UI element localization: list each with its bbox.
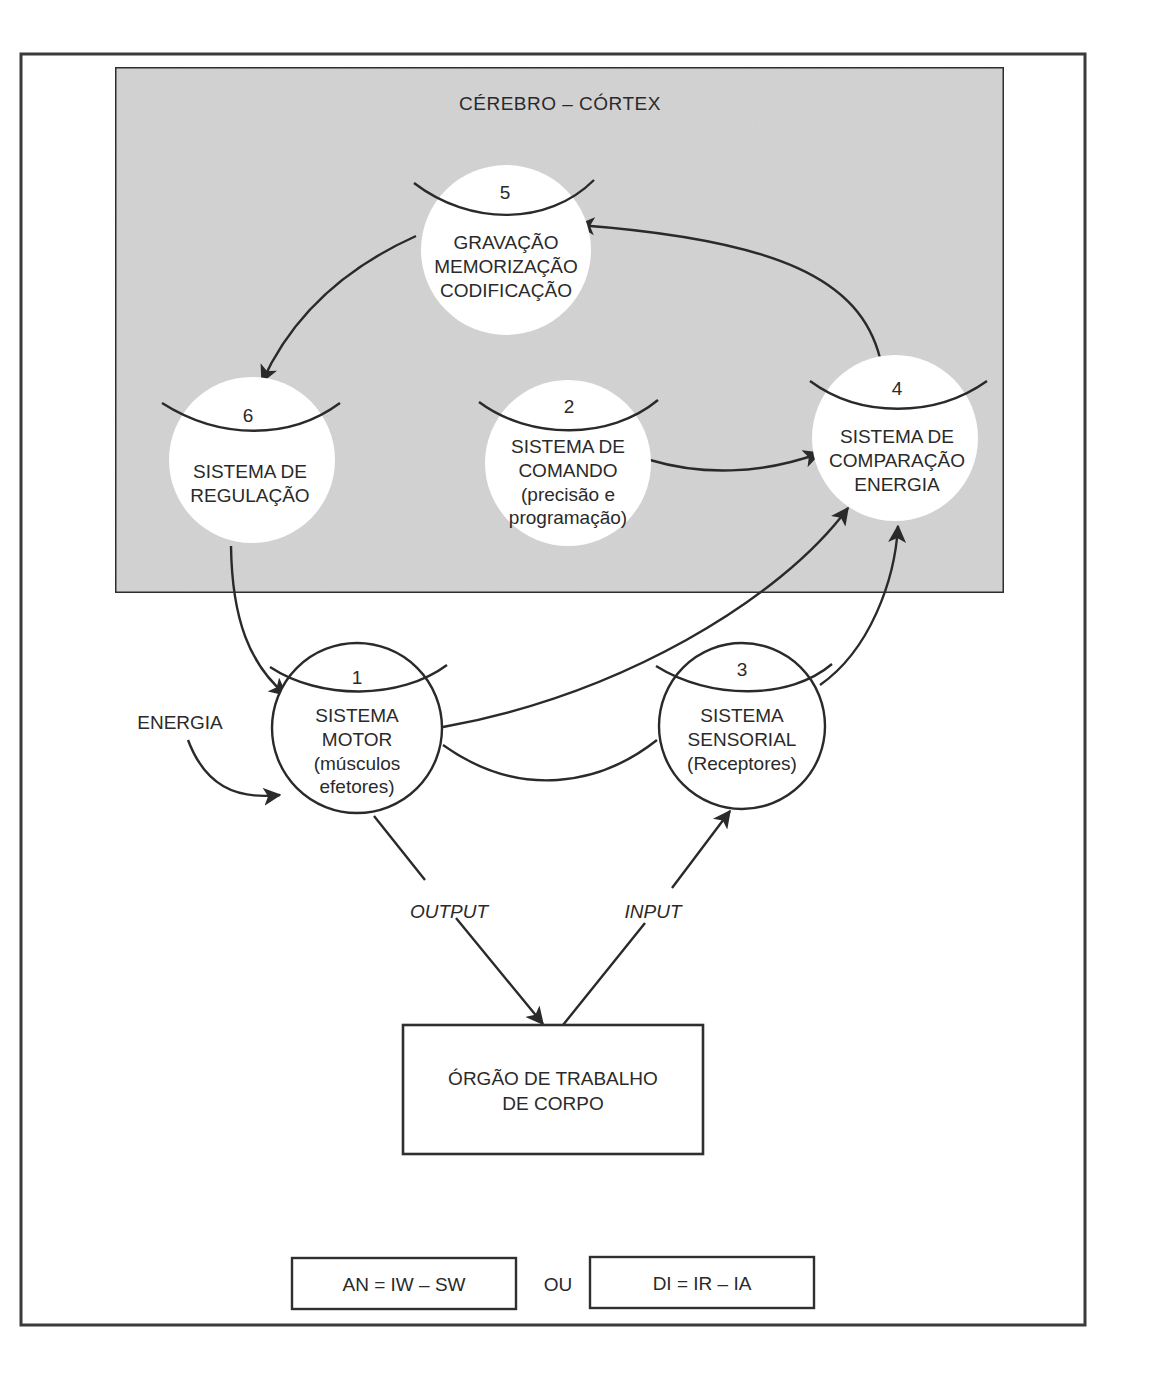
node-label-line: SISTEMA <box>700 705 784 726</box>
node-number: 2 <box>564 396 575 417</box>
organ-label-line: DE CORPO <box>502 1093 603 1114</box>
node-label-line: (músculos <box>314 753 401 774</box>
node-label-line: SISTEMA <box>315 705 399 726</box>
node-label-line: efetores) <box>320 776 395 797</box>
node-label-line: (Receptores) <box>687 753 797 774</box>
node-number: 4 <box>892 378 903 399</box>
node-label-line: SISTEMA DE <box>193 461 307 482</box>
input-label: INPUT <box>625 901 683 922</box>
node-label-line: SISTEMA DE <box>511 436 625 457</box>
node-label-line: COMPARAÇÃO <box>829 450 965 471</box>
node-label-line: REGULAÇÃO <box>190 485 309 506</box>
node-label-line: programação) <box>509 507 627 528</box>
node-number: 5 <box>500 182 511 203</box>
formula-connector: OU <box>544 1274 573 1295</box>
energia-label: ENERGIA <box>137 712 223 733</box>
body-organ-box[interactable]: ÓRGÃO DE TRABALHO DE CORPO <box>403 1025 703 1154</box>
node-label-line: CODIFICAÇÃO <box>440 280 572 301</box>
node-label-line: MOTOR <box>322 729 392 750</box>
formula-right: DI = IR – IA <box>590 1257 814 1308</box>
node-number: 6 <box>243 405 254 426</box>
formula-left: AN = IW – SW <box>292 1258 516 1309</box>
output-label: OUTPUT <box>410 901 490 922</box>
node-label-line: SISTEMA DE <box>840 426 954 447</box>
node-label-line: (precisão e <box>521 484 615 505</box>
node-label-line: GRAVAÇÃO <box>454 232 559 253</box>
node-label-line: MEMORIZAÇÃO <box>434 256 578 277</box>
node-label-line: SENSORIAL <box>688 729 797 750</box>
node-number: 1 <box>352 667 363 688</box>
feedback-loop-diagram: CÉREBRO – CÓRTEX 5 GRAVAÇÃO MEMORIZAÇÃO … <box>0 0 1153 1399</box>
region-title: CÉREBRO – CÓRTEX <box>459 93 661 114</box>
node-label-line: COMANDO <box>518 460 617 481</box>
organ-label-line: ÓRGÃO DE TRABALHO <box>448 1068 658 1089</box>
formula-right-text: DI = IR – IA <box>653 1273 752 1294</box>
node-label-line: ENERGIA <box>854 474 940 495</box>
formula-left-text: AN = IW – SW <box>343 1274 466 1295</box>
node-number: 3 <box>737 659 748 680</box>
